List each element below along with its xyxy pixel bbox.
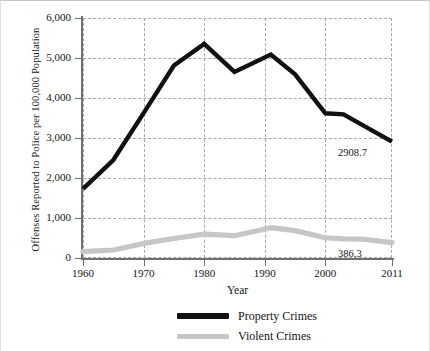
data-point-label: 386.3: [338, 248, 362, 259]
series-lines: [83, 18, 392, 258]
x-tick-label: 1990: [235, 267, 295, 279]
plot-area: 2908.7386.3: [83, 18, 392, 258]
legend-label-property-crimes: Property Crimes: [238, 309, 317, 324]
x-tick-mark: [325, 259, 326, 266]
x-tick-label: 2000: [295, 267, 355, 279]
y-tick-mark: [75, 98, 82, 99]
y-tick-label: 3,000: [17, 131, 71, 143]
chart-figure: Offenses Reported to Police per 100,000 …: [0, 0, 430, 351]
x-tick-label: 1960: [53, 267, 113, 279]
y-tick-label: 5,000: [17, 51, 71, 63]
x-axis-title: Year: [83, 284, 392, 296]
x-tick-label: 1970: [114, 267, 174, 279]
y-tick-mark: [75, 58, 82, 59]
x-tick-label: 1980: [174, 267, 234, 279]
y-tick-mark: [75, 178, 82, 179]
data-point-label: 2908.7: [338, 147, 367, 158]
y-tick-mark: [75, 218, 82, 219]
x-tick-label: 2011: [362, 267, 422, 279]
x-tick-mark: [265, 259, 266, 266]
y-tick-mark: [75, 258, 82, 259]
legend-item-property-crimes: Property Crimes: [177, 306, 317, 326]
legend-label-violent-crimes: Violent Crimes: [238, 329, 311, 344]
y-tick-mark: [75, 18, 82, 19]
legend-swatch-property-crimes: [177, 313, 229, 319]
y-tick-label: 0: [17, 251, 71, 263]
x-tick-mark: [392, 259, 393, 266]
legend-item-violent-crimes: Violent Crimes: [177, 326, 317, 346]
y-tick-label: 2,000: [17, 171, 71, 183]
y-tick-label: 1,000: [17, 211, 71, 223]
x-tick-mark: [204, 259, 205, 266]
x-tick-mark: [83, 259, 84, 266]
chart-legend: Property Crimes Violent Crimes: [177, 306, 317, 346]
y-tick-mark: [75, 138, 82, 139]
line-property-crimes: [83, 44, 392, 189]
legend-swatch-violent-crimes: [177, 334, 229, 339]
y-tick-label: 6,000: [17, 11, 71, 23]
y-tick-label: 4,000: [17, 91, 71, 103]
x-tick-mark: [144, 259, 145, 266]
